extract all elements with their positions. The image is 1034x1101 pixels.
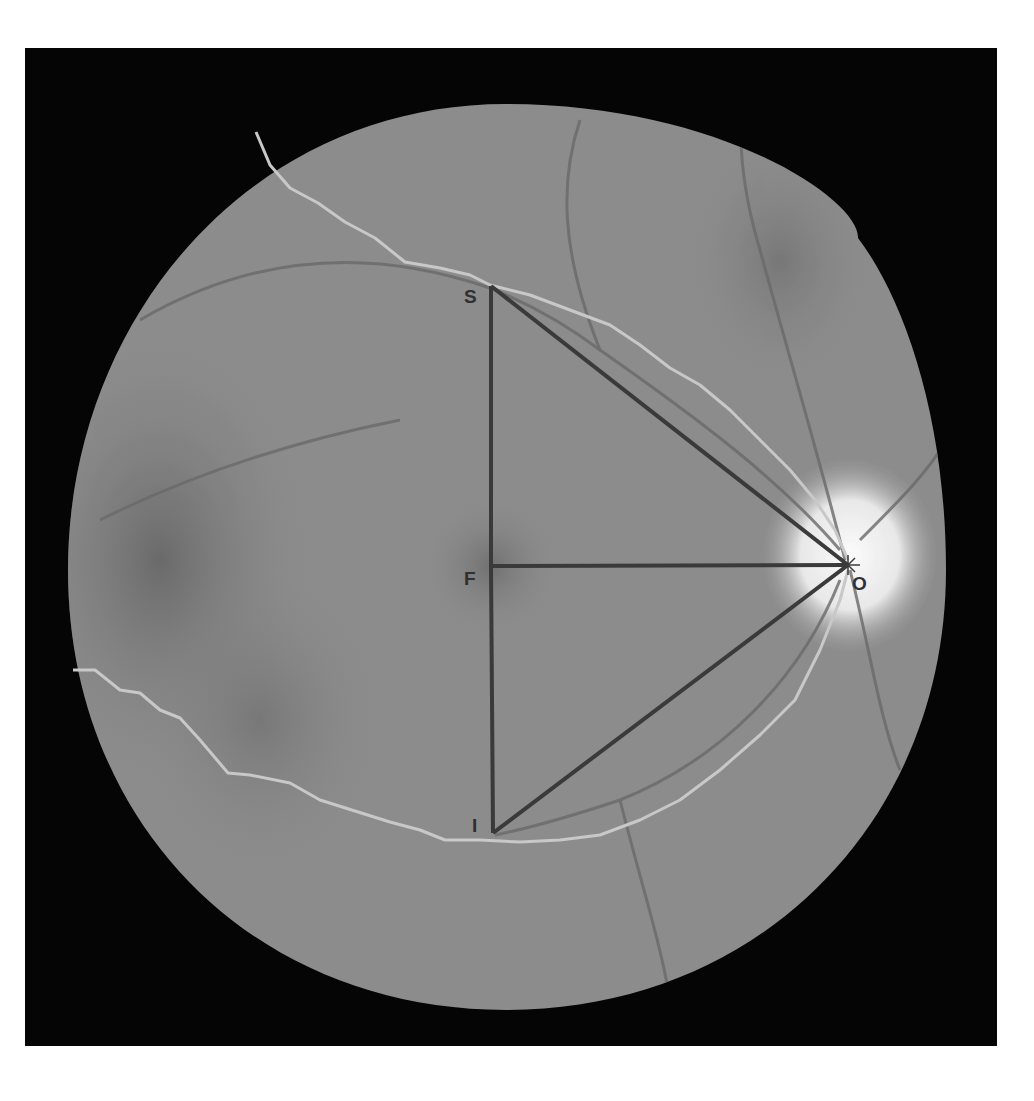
label-fovea: F <box>464 568 476 589</box>
segment-F-I <box>491 566 493 833</box>
label-optic-disc: O <box>852 573 867 594</box>
fundus-figure: S F I O <box>0 0 1034 1101</box>
label-superior: S <box>464 286 477 307</box>
label-inferior: I <box>472 815 477 836</box>
segment-F-O <box>491 565 848 566</box>
fundus-disc <box>10 104 946 1010</box>
